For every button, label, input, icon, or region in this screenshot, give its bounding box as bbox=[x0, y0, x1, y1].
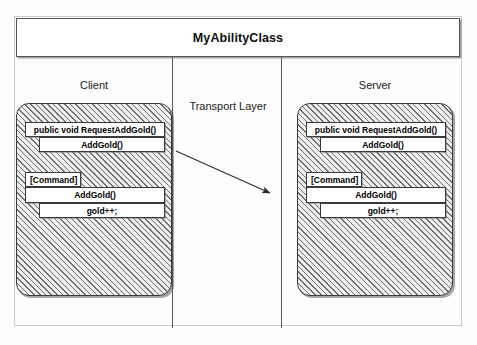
lane-label-server: Server bbox=[297, 79, 453, 91]
client-panel: public void RequestAddGold() AddGold() [… bbox=[16, 103, 172, 296]
server-method-request-body: AddGold() bbox=[320, 137, 446, 152]
class-header-box: MyAbilityClass bbox=[16, 18, 460, 57]
page-title: MyAbilityClass bbox=[193, 31, 283, 45]
client-method-command-body: gold++; bbox=[39, 203, 165, 218]
client-method-request-body: AddGold() bbox=[39, 137, 165, 152]
client-command-attribute-tag: [Command] bbox=[25, 172, 81, 187]
server-panel: public void RequestAddGold() AddGold() [… bbox=[297, 103, 453, 296]
lane-divider-right bbox=[281, 57, 282, 328]
transport-arrow-icon bbox=[170, 140, 282, 202]
lane-divider-left bbox=[172, 57, 173, 328]
client-method-request: public void RequestAddGold() bbox=[25, 122, 165, 137]
diagram-canvas: MyAbilityClass Client Transport Layer Se… bbox=[0, 0, 477, 345]
server-method-request: public void RequestAddGold() bbox=[306, 122, 446, 137]
server-method-command: AddGold() bbox=[306, 187, 446, 203]
lane-label-transport: Transport Layer bbox=[176, 100, 280, 112]
server-command-attribute-tag: [Command] bbox=[306, 172, 362, 187]
server-method-command-body: gold++; bbox=[320, 203, 446, 218]
lane-label-client: Client bbox=[16, 79, 172, 91]
client-method-command: AddGold() bbox=[25, 187, 165, 203]
